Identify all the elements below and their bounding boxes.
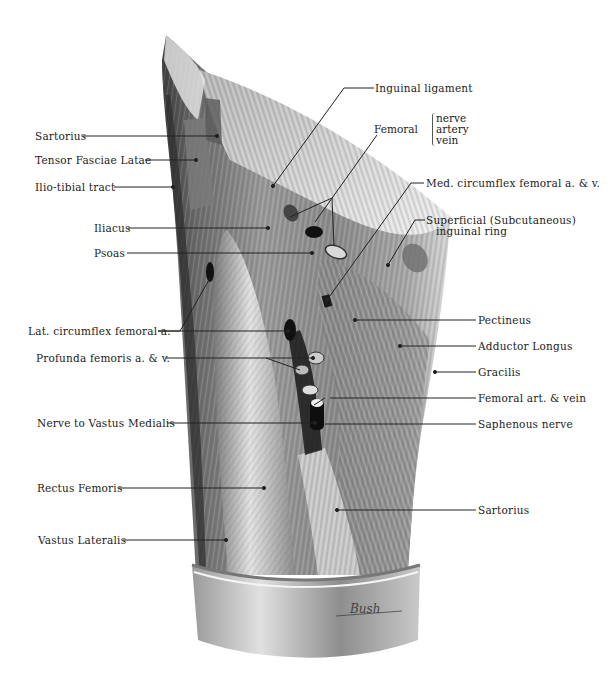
label-femoral-art-vein: Femoral art. & vein [478, 392, 586, 404]
label-saphenous-nerve: Saphenous nerve [478, 418, 573, 430]
label-sartorius-lower: Sartorius [478, 504, 529, 516]
label-rectus-femoris: Rectus Femoris [37, 482, 122, 494]
femoral-brace: nerve artery vein [432, 113, 469, 146]
label-nerve-vastus-medialis: Nerve to Vastus Medialis [37, 417, 175, 429]
femoral-group: Femoral nerve artery vein [374, 124, 418, 135]
label-inguinal-ligament: Inguinal ligament [375, 82, 473, 94]
label-iliacus: Iliacus [94, 222, 131, 234]
label-adductor-longus: Adductor Longus [478, 340, 573, 352]
label-tensor-fasciae-latae: Tensor Fasciae Latae [35, 154, 151, 166]
label-pectineus: Pectineus [478, 314, 531, 326]
label-sartorius: Sartorius [35, 130, 86, 142]
label-inguinal-ring: inguinal ring [436, 225, 507, 237]
label-vastus-lateralis: Vastus Lateralis [38, 534, 126, 546]
anatomical-figure: Bush Sartorius Tensor Fasciae Latae Ilio… [0, 0, 612, 686]
label-med-circumflex-femoral: Med. circumflex femoral a. & v. [426, 177, 600, 189]
label-gracilis: Gracilis [478, 366, 521, 378]
label-psoas: Psoas [94, 247, 125, 259]
label-profunda-femoris: Profunda femoris a. & v. [36, 352, 170, 364]
label-lat-circumflex-femoral: Lat. circumflex femoral a. [28, 325, 171, 337]
label-femoral: Femoral [374, 123, 418, 135]
label-femoral-vein: vein [436, 135, 469, 146]
label-ilio-tibial-tract: Ilio-tibial tract [35, 181, 115, 193]
